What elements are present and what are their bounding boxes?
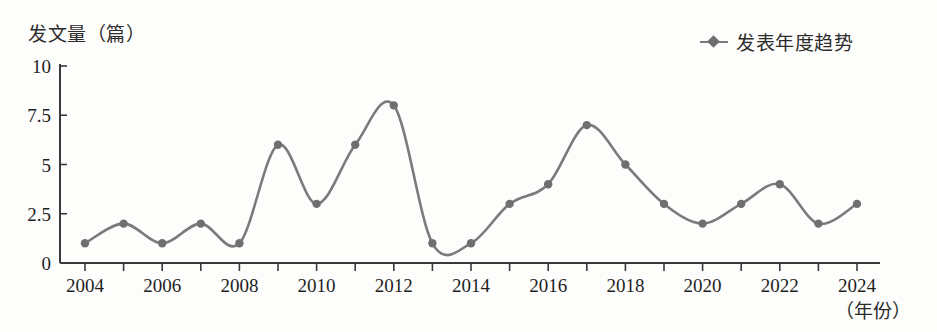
- x-tick-label: 2024: [838, 275, 877, 296]
- x-tick-label: 2014: [452, 275, 491, 296]
- data-point-marker: [544, 180, 552, 188]
- x-axis-title: （年份）: [835, 296, 911, 323]
- y-tick-label: 2.5: [27, 204, 51, 225]
- x-tick-label: 2010: [298, 275, 336, 296]
- x-tick-label: 2022: [761, 275, 799, 296]
- data-point-marker: [698, 219, 706, 227]
- data-point-marker: [428, 239, 436, 247]
- data-point-marker: [235, 239, 243, 247]
- series-markers: [81, 101, 861, 247]
- y-axis: 02.557.510: [27, 56, 67, 274]
- data-point-marker: [390, 101, 398, 109]
- data-point-marker: [197, 219, 205, 227]
- x-tick-label: 2006: [143, 275, 181, 296]
- data-point-marker: [814, 219, 822, 227]
- data-point-marker: [853, 200, 861, 208]
- data-point-marker: [351, 141, 359, 149]
- x-tick-label: 2008: [220, 275, 258, 296]
- data-point-marker: [119, 219, 127, 227]
- data-point-marker: [312, 200, 320, 208]
- x-axis: 2004200620082010201220142016201820202022…: [60, 263, 880, 296]
- y-tick-label: 7.5: [27, 105, 51, 126]
- data-point-marker: [81, 239, 89, 247]
- data-point-marker: [776, 180, 784, 188]
- x-tick-label: 2012: [375, 275, 413, 296]
- series-line-path: [85, 101, 857, 255]
- x-tick-label: 2020: [684, 275, 722, 296]
- x-tick-label: 2004: [66, 275, 105, 296]
- data-point-marker: [621, 160, 629, 168]
- x-tick-label: 2018: [606, 275, 644, 296]
- y-tick-label: 5: [42, 155, 52, 176]
- y-tick-label: 10: [32, 56, 51, 77]
- chart-page: 发文量（篇） 发表年度趋势 02.557.510 200420062008201…: [0, 0, 937, 332]
- x-tick-label: 2016: [529, 275, 567, 296]
- data-point-marker: [505, 200, 513, 208]
- data-point-marker: [274, 141, 282, 149]
- data-point-marker: [660, 200, 668, 208]
- data-point-marker: [583, 121, 591, 129]
- series-line: [85, 101, 857, 255]
- y-tick-label: 0: [42, 253, 52, 274]
- data-point-marker: [737, 200, 745, 208]
- line-chart-plot: 02.557.510 20042006200820102012201420162…: [0, 0, 937, 332]
- data-point-marker: [158, 239, 166, 247]
- data-point-marker: [467, 239, 475, 247]
